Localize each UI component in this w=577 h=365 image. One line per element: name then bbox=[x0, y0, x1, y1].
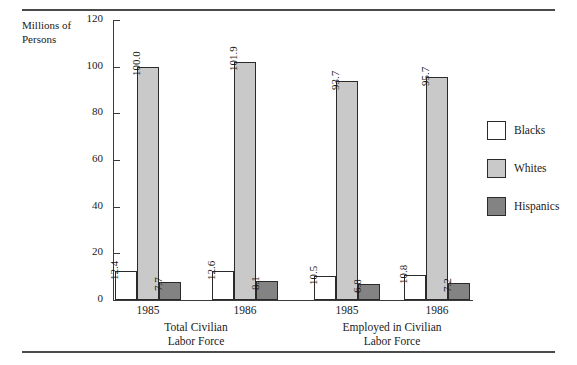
y-axis-tick-mark bbox=[113, 253, 120, 254]
x-axis-group-caption: Employed in Civilian Labor Force bbox=[302, 320, 482, 348]
bar-value-label: 100.0 bbox=[130, 51, 142, 76]
legend-label: Hispanics bbox=[514, 200, 559, 212]
x-axis-group-caption: Total Civilian Labor Force bbox=[106, 320, 286, 348]
y-axis-tick-mark bbox=[113, 160, 120, 161]
bar-value-label: 7.7 bbox=[152, 277, 164, 291]
bar-value-label: 10.5 bbox=[307, 265, 319, 284]
bar-blacks: 10.8 bbox=[404, 275, 426, 300]
bar-value-label: 93.7 bbox=[329, 71, 341, 90]
y-axis-tick-label: 60 bbox=[63, 152, 103, 164]
bar-value-label: 6.8 bbox=[351, 279, 363, 293]
x-axis-year-label: 1985 bbox=[317, 304, 377, 316]
bar-hispanics: 7.2 bbox=[448, 283, 470, 300]
bar-blacks: 12.4 bbox=[115, 271, 137, 300]
y-axis-tick-label: 80 bbox=[63, 105, 103, 117]
bar-value-label: 7.2 bbox=[441, 278, 453, 292]
bar-value-label: 12.4 bbox=[108, 261, 120, 280]
bar-hispanics: 8.1 bbox=[256, 281, 278, 300]
x-axis-line bbox=[113, 300, 473, 301]
x-axis-year-label: 1986 bbox=[215, 304, 275, 316]
bar-whites: 101.9 bbox=[234, 62, 256, 300]
top-divider-rule bbox=[22, 9, 555, 11]
legend-swatch-whites bbox=[487, 159, 506, 178]
bar-value-label: 10.8 bbox=[397, 265, 409, 284]
y-axis-tick-mark bbox=[113, 20, 120, 21]
bar-whites: 95.7 bbox=[426, 77, 448, 300]
legend-label: Blacks bbox=[514, 124, 545, 136]
bar-hispanics: 7.7 bbox=[159, 282, 181, 300]
y-axis-tick-label: 120 bbox=[63, 12, 103, 24]
bar-hispanics: 6.8 bbox=[358, 284, 380, 300]
y-axis-tick-mark bbox=[113, 67, 120, 68]
x-axis-year-label: 1985 bbox=[118, 304, 178, 316]
bottom-divider-rule bbox=[22, 351, 555, 353]
y-axis-tick-label: 0 bbox=[63, 292, 103, 304]
bar-value-label: 101.9 bbox=[227, 46, 239, 71]
y-axis-tick-mark bbox=[113, 207, 120, 208]
bar-blacks: 10.5 bbox=[314, 276, 336, 301]
bar-whites: 93.7 bbox=[336, 81, 358, 300]
bar-value-label: 8.1 bbox=[249, 276, 261, 290]
y-axis-tick-label: 20 bbox=[63, 245, 103, 257]
legend-label: Whites bbox=[514, 162, 547, 174]
y-axis-tick-label: 100 bbox=[63, 59, 103, 71]
y-axis-tick-label: 40 bbox=[63, 199, 103, 211]
bar-value-label: 12.6 bbox=[205, 260, 217, 279]
bar-value-label: 95.7 bbox=[419, 66, 431, 85]
chart-page: Millions of Persons 020406080100120 12.4… bbox=[0, 0, 577, 365]
plot-area: 020406080100120 12.4100.07.712.6101.98.1… bbox=[113, 20, 465, 300]
y-axis-tick-mark bbox=[113, 113, 120, 114]
bar-blacks: 12.6 bbox=[212, 271, 234, 300]
legend-swatch-blacks bbox=[487, 121, 506, 140]
y-axis-tick-mark bbox=[113, 300, 120, 301]
bar-whites: 100.0 bbox=[137, 67, 159, 300]
x-axis-year-label: 1986 bbox=[407, 304, 467, 316]
legend-swatch-hispanics bbox=[487, 197, 506, 216]
